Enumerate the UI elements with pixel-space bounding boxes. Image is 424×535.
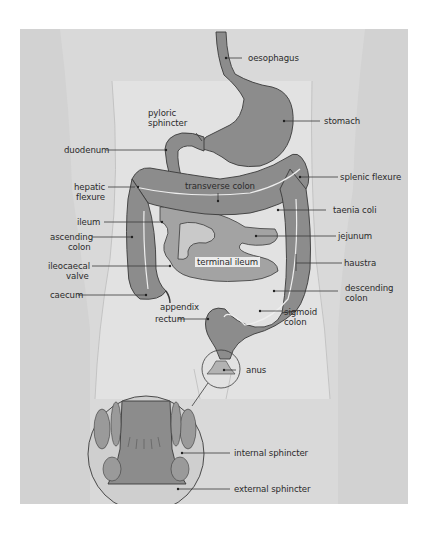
label-sigmoid-colon-line1: sigmoid [284,307,317,317]
label-hepatic-flexure-line2: flexure [76,192,105,202]
label-terminal-ileum: terminal ileum [195,257,260,267]
label-duodenum: duodenum [64,145,109,155]
label-external-sphincter: external sphincter [234,484,310,494]
label-ileum: ileum [77,217,100,227]
label-sigmoid-colon-line2: colon [284,317,307,327]
label-hepatic-flexure-line1: hepatic [74,182,105,192]
label-rectum: rectum [155,314,185,324]
label-ileocaecal-valve-line2: valve [66,271,89,281]
label-descending-colon-line1: descending [345,283,393,293]
anal-canal-inset [88,396,204,504]
label-descending-colon-line2: colon [345,293,368,303]
diagram-panel: oesophagus pyloric sphincter stomach duo… [20,29,408,504]
label-jejunum: jejunum [338,231,372,241]
label-ascending-colon-line1: ascending [50,232,93,242]
label-caecum: caecum [50,290,83,300]
label-haustra: haustra [344,258,376,268]
label-internal-sphincter: internal sphincter [234,448,308,458]
label-oesophagus: oesophagus [248,53,299,63]
label-anus: anus [246,365,266,375]
label-pyloric-sphincter-line1: pyloric [148,108,176,118]
label-splenic-flexure: splenic flexure [340,172,401,182]
label-appendix: appendix [160,302,199,312]
label-ascending-colon-line2: colon [68,242,91,252]
label-ileocaecal-valve-line1: ileocaecal [48,261,90,271]
label-stomach: stomach [324,116,360,126]
label-taenia-coli: taenia coli [333,205,376,215]
label-transverse-colon: transverse colon [185,181,255,191]
label-pyloric-sphincter-line2: sphincter [148,118,187,128]
